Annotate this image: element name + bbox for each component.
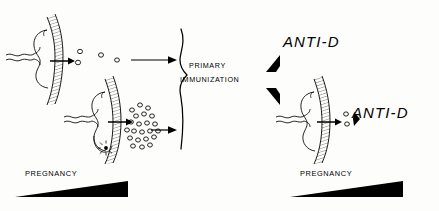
pregnancy-label-left: PREGNANCY <box>25 170 77 177</box>
anti-d-response-arrowhead-top <box>266 55 280 72</box>
anti-d-label-bottom: ANTI-D <box>352 105 409 120</box>
fetal-cells-pair <box>344 112 350 126</box>
flow-arrow-top <box>131 56 177 63</box>
fetal-cells-many <box>125 103 161 149</box>
anti-d-label-top: ANTI-D <box>283 34 340 49</box>
rh-immunization-diagram: PRIMARY IMMUNIZATION ANTI-D ANTI-D PREGN… <box>0 0 439 211</box>
placenta-subsequent-pregnancy <box>276 76 360 164</box>
placenta-first-pregnancy <box>6 14 177 105</box>
placenta-second-pregnancy <box>64 76 177 164</box>
flow-arrow-bottom <box>151 126 177 133</box>
anti-d-response-arrowhead-bottom <box>266 88 280 105</box>
primary-immunization-brace-icon <box>180 29 187 149</box>
pregnancy-label-right: PREGNANCY <box>300 170 352 177</box>
pregnancy-wedge-right <box>290 181 403 197</box>
primary-label: PRIMARY <box>189 62 226 69</box>
fetal-cells-few <box>75 49 119 65</box>
pregnancy-wedge-left <box>15 181 128 197</box>
immunization-label: IMMUNIZATION <box>180 76 239 83</box>
